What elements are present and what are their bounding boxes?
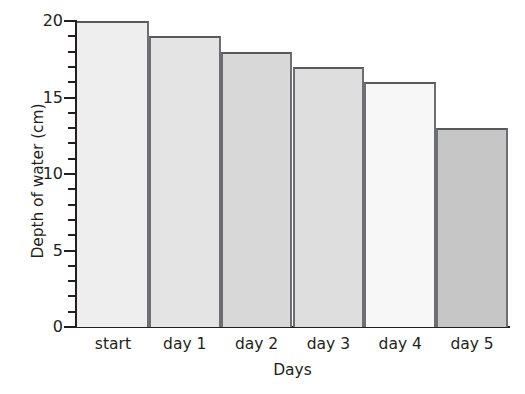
x-axis-category-label: day 3 bbox=[293, 334, 365, 354]
y-axis-tick-label: 5 bbox=[3, 243, 63, 259]
y-axis-minor-tick bbox=[68, 66, 75, 68]
x-axis-category-label: day 5 bbox=[436, 334, 508, 354]
y-axis-minor-tick bbox=[68, 188, 75, 190]
bar-day-4 bbox=[364, 82, 436, 327]
y-axis-tick-label: 10 bbox=[3, 166, 63, 182]
y-axis-minor-tick bbox=[68, 35, 75, 37]
x-axis-category-label: start bbox=[77, 334, 149, 354]
y-axis-minor-tick bbox=[68, 280, 75, 282]
bar-day-5 bbox=[436, 128, 508, 327]
y-axis-minor-tick bbox=[68, 51, 75, 53]
bar-day-2 bbox=[221, 52, 293, 327]
y-axis-minor-tick bbox=[68, 311, 75, 313]
x-axis-title: Days bbox=[77, 361, 508, 379]
y-axis-minor-tick bbox=[68, 112, 75, 114]
y-axis-major-tick bbox=[64, 97, 75, 99]
y-axis-major-tick bbox=[64, 20, 75, 22]
y-axis-minor-tick bbox=[68, 81, 75, 83]
bar-start bbox=[77, 21, 149, 327]
bar-day-3 bbox=[293, 67, 365, 327]
x-axis-category-label: day 4 bbox=[364, 334, 436, 354]
bar-day-1 bbox=[149, 36, 221, 327]
y-axis-minor-tick bbox=[68, 204, 75, 206]
y-axis-minor-tick bbox=[68, 158, 75, 160]
y-axis-tick-label: 20 bbox=[3, 13, 63, 29]
y-axis-minor-tick bbox=[68, 234, 75, 236]
y-axis-minor-tick bbox=[68, 142, 75, 144]
y-axis-minor-tick bbox=[68, 219, 75, 221]
x-axis-category-label: day 2 bbox=[221, 334, 293, 354]
x-axis-category-label: day 1 bbox=[149, 334, 221, 354]
y-axis-minor-tick bbox=[68, 295, 75, 297]
y-axis-minor-tick bbox=[68, 127, 75, 129]
y-axis-tick-label: 15 bbox=[3, 90, 63, 106]
y-axis-major-tick bbox=[64, 250, 75, 252]
y-axis-major-tick bbox=[64, 326, 75, 328]
y-axis-tick-label: 0 bbox=[3, 319, 63, 335]
bar-chart: Depth of water (cm) 05101520 startday 1d… bbox=[0, 0, 525, 394]
y-axis-major-tick bbox=[64, 173, 75, 175]
plot-area bbox=[77, 21, 508, 327]
y-axis-minor-tick bbox=[68, 265, 75, 267]
